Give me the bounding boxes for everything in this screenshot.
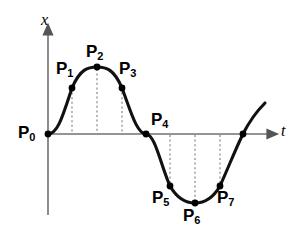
y-axis-label: x: [41, 12, 48, 28]
point-dot-p2: [94, 64, 101, 71]
point-dot-p4: [143, 131, 150, 138]
point-label-p4-letter: P: [151, 110, 162, 129]
point-label-p4-sub: 4: [162, 118, 168, 130]
point-label-p0-sub: 0: [29, 131, 35, 143]
point-label-p3: P3: [119, 60, 136, 77]
point-label-p7: P7: [217, 189, 234, 206]
x-axis-label: t: [281, 123, 285, 139]
point-label-p3-sub: 3: [130, 67, 136, 79]
point-label-p1: P1: [56, 60, 73, 77]
point-dot-end: [240, 131, 247, 138]
sine-wave-figure: x t P0 P1 P2 P3 P4 P5 P6 P7: [0, 0, 299, 242]
point-dot-p1: [69, 85, 76, 92]
point-label-p7-sub: 7: [228, 196, 234, 208]
plot-canvas: [0, 0, 299, 242]
point-label-p2-letter: P: [86, 42, 97, 61]
point-dot-p0: [45, 131, 52, 138]
point-label-p5: P5: [152, 189, 169, 206]
point-label-p1-sub: 1: [67, 67, 73, 79]
point-label-p2-sub: 2: [97, 50, 103, 62]
point-label-p6: P6: [183, 207, 200, 224]
point-label-p1-letter: P: [56, 59, 67, 78]
point-label-p3-letter: P: [119, 59, 130, 78]
point-dot-p3: [119, 85, 126, 92]
point-label-p2: P2: [86, 43, 103, 60]
dotted-guides-upper: [72, 69, 122, 133]
dotted-guides-lower: [170, 135, 220, 202]
point-label-p6-sub: 6: [194, 214, 200, 226]
point-label-p6-letter: P: [183, 206, 194, 225]
point-label-p0-letter: P: [18, 123, 29, 142]
point-label-p0: P0: [18, 124, 35, 141]
sine-curve: [48, 67, 265, 203]
point-label-p7-letter: P: [217, 188, 228, 207]
point-label-p4: P4: [151, 111, 168, 128]
point-label-p5-letter: P: [152, 188, 163, 207]
point-label-p5-sub: 5: [163, 196, 169, 208]
